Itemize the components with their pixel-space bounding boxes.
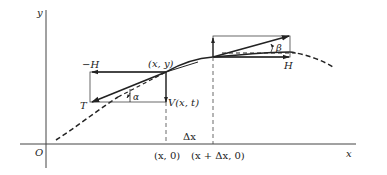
x-axis-label: x	[346, 149, 352, 159]
vertical-force-label: V(x, t)	[168, 98, 199, 108]
beta-label: β	[276, 43, 282, 53]
tension-label: T	[80, 101, 87, 111]
h-label: H	[284, 61, 293, 71]
right-angle-arc	[271, 44, 273, 52]
string-curve-dashed-right	[290, 52, 333, 67]
right-foot-label: (x + Δx, 0)	[191, 151, 245, 161]
left-angle-arc	[127, 93, 130, 98]
string-curve-dashed-left	[56, 97, 118, 140]
string-force-diagram	[0, 0, 387, 175]
y-axis-label: y	[37, 8, 43, 18]
delta-x-label: Δx	[183, 132, 196, 142]
origin-label: O	[35, 148, 43, 158]
left-foot-label: (x, 0)	[154, 151, 180, 161]
alpha-label: α	[133, 93, 139, 102]
minus-h-label: −H	[82, 60, 99, 70]
left-tension-arrow	[92, 72, 166, 102]
string-curve-solid	[166, 52, 290, 72]
point-label: (x, y)	[148, 59, 173, 69]
